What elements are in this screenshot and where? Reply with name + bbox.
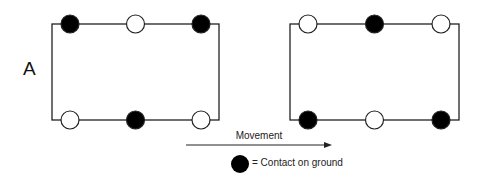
legend-text: = Contact on ground [252,157,343,168]
movement-arrow [186,142,332,148]
lifted-foot-icon [366,111,384,129]
movement-label: Movement [186,130,332,141]
lifted-foot-icon [299,15,317,33]
panel-label: A [23,58,36,80]
contact-foot-icon [61,15,79,33]
frame-1 [52,15,219,129]
body-outline [52,24,219,120]
gait-diagram [0,0,481,187]
legend-contact-icon [231,155,249,173]
lifted-foot-icon [432,15,450,33]
contact-foot-icon [432,111,450,129]
contact-foot-icon [366,15,384,33]
lifted-foot-icon [192,111,210,129]
body-outline [290,24,459,120]
frame-2 [290,15,459,129]
contact-foot-icon [299,111,317,129]
lifted-foot-icon [127,15,145,33]
lifted-foot-icon [61,111,79,129]
contact-foot-icon [127,111,145,129]
contact-foot-icon [192,15,210,33]
